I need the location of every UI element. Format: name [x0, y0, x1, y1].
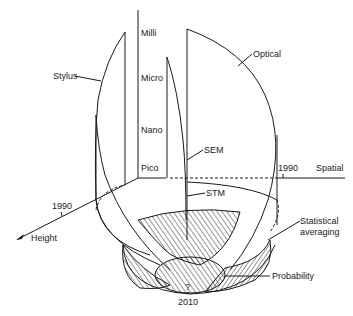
instrument-label-optical: Optical: [253, 49, 281, 59]
height-axis-arrow-icon: [16, 234, 24, 240]
future-question-mark: ?: [185, 282, 190, 292]
statistical-leader: [268, 221, 300, 240]
future-marker-dot: [187, 292, 189, 294]
height-1990-tick: [61, 212, 62, 216]
statistical-label-line1: Statistical: [300, 216, 339, 226]
spatial-axis-label: Spatial: [316, 163, 344, 173]
scale-label-micro: Micro: [141, 73, 163, 83]
height-axis-label: Height: [31, 233, 58, 243]
scale-label-pico: Pico: [141, 163, 159, 173]
stm-leader: [187, 193, 205, 196]
instrument-label-stylus: Stylus: [53, 71, 78, 81]
stylus-leader: [75, 76, 101, 81]
spatial-year-label: 1990: [278, 163, 298, 173]
scale-label-nano: Nano: [141, 125, 163, 135]
instrument-label-stm: STM: [206, 188, 225, 198]
scale-label-milli: Milli: [141, 28, 157, 38]
stm-plane-front: [187, 182, 277, 200]
height-year-label: 1990: [52, 201, 72, 211]
resolution-diagram: Milli Micro Nano Pico Stylus Optical SEM…: [0, 0, 353, 316]
future-year-label: 2010: [178, 297, 198, 307]
probability-label: Probability: [272, 271, 315, 281]
sem-curve: [167, 57, 186, 220]
statistical-label-line2: averaging: [300, 227, 340, 237]
instrument-label-sem: SEM: [204, 145, 224, 155]
sem-leader: [187, 150, 203, 160]
